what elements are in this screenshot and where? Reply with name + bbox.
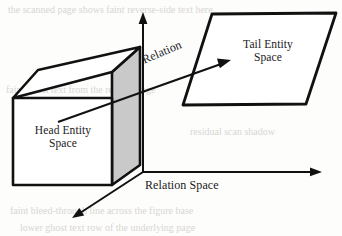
vertical-axis-arrowhead bbox=[139, 12, 148, 24]
tail-entity-space-label: Tail Entity Space bbox=[225, 38, 311, 64]
horizontal-axis-arrowhead bbox=[310, 167, 322, 176]
relation-space-label: Relation Space bbox=[145, 179, 249, 192]
figure-container: the scanned page shows faint reverse-sid… bbox=[0, 0, 342, 236]
figure-drawing bbox=[0, 0, 342, 236]
depth-axis-arrowhead bbox=[72, 208, 84, 218]
head-entity-space-label: Head Entity Space bbox=[16, 124, 110, 150]
